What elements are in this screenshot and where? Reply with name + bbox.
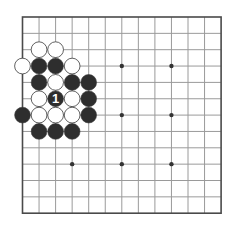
star-point	[120, 113, 124, 117]
black-stone: 1	[48, 91, 64, 107]
white-stone	[64, 91, 80, 107]
star-point	[169, 113, 173, 117]
go-board: 1	[0, 0, 236, 227]
black-stone	[31, 75, 47, 91]
white-stone	[31, 42, 47, 58]
star-point	[169, 162, 173, 166]
stones-layer: 1	[15, 42, 97, 140]
black-stone	[31, 124, 47, 140]
white-stone	[31, 107, 47, 123]
black-stone	[64, 124, 80, 140]
move-number-label: 1	[52, 91, 59, 106]
black-stone	[81, 75, 97, 91]
black-stone	[48, 58, 64, 74]
black-stone	[81, 91, 97, 107]
black-stone	[31, 58, 47, 74]
black-stone	[48, 124, 64, 140]
white-stone	[48, 42, 64, 58]
white-stone	[64, 107, 80, 123]
star-point	[120, 64, 124, 68]
white-stone	[31, 91, 47, 107]
star-point	[70, 162, 74, 166]
white-stone	[64, 58, 80, 74]
black-stone	[15, 107, 31, 123]
black-stone	[81, 107, 97, 123]
white-stone	[48, 107, 64, 123]
star-point	[120, 162, 124, 166]
star-point	[169, 64, 173, 68]
white-stone	[48, 75, 64, 91]
white-stone	[15, 58, 31, 74]
black-stone	[64, 75, 80, 91]
